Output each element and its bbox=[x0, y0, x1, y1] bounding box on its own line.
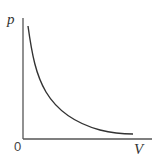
x-axis-label: V bbox=[134, 142, 143, 157]
y-axis-label: p bbox=[7, 12, 15, 27]
pv-curve bbox=[28, 26, 133, 134]
origin-label: 0 bbox=[14, 140, 21, 153]
